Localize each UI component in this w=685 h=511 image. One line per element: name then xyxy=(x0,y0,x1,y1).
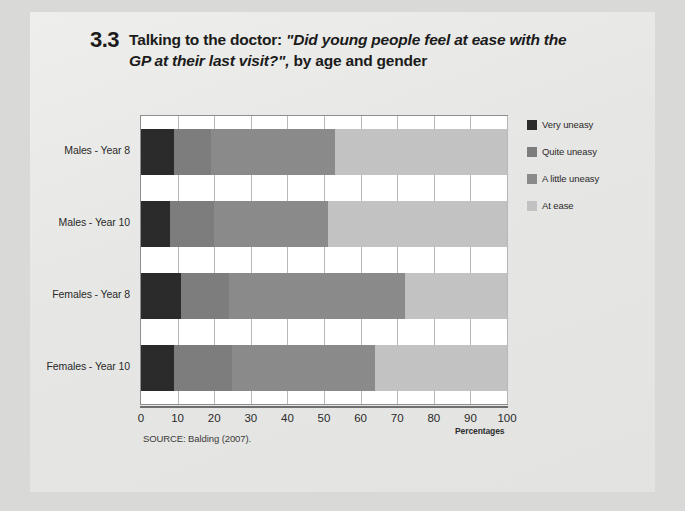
chart-legend: Very uneasyQuite uneasyA little uneasyAt… xyxy=(527,119,647,227)
x-tick-30: 30 xyxy=(244,412,257,424)
legend-item-very-uneasy[interactable]: Very uneasy xyxy=(527,119,647,130)
stacked-bar-chart: Males - Year 8Males - Year 10Females - Y… xyxy=(30,12,655,492)
x-axis-title: Percentages xyxy=(455,426,504,436)
x-axis: 0102030405060708090100 xyxy=(140,406,508,432)
legend-label: At ease xyxy=(542,200,574,211)
category-axis-labels: Males - Year 8Males - Year 10Females - Y… xyxy=(30,115,134,405)
segment-very-uneasy xyxy=(141,129,174,175)
x-tick-70: 70 xyxy=(391,412,404,424)
legend-item-at-ease[interactable]: At ease xyxy=(527,200,647,211)
legend-label: Very uneasy xyxy=(542,119,593,130)
segment-at-ease xyxy=(375,345,507,391)
segment-very-uneasy xyxy=(141,345,174,391)
legend-swatch-icon xyxy=(527,174,537,184)
legend-swatch-icon xyxy=(527,147,537,157)
segment-a-little-uneasy xyxy=(232,345,375,391)
figure-page: 3.3 Talking to the doctor: "Did young pe… xyxy=(30,12,655,492)
x-tick-0: 0 xyxy=(138,412,144,424)
source-note: SOURCE: Balding (2007). xyxy=(143,433,251,444)
category-label-females-year-8: Females - Year 8 xyxy=(30,288,130,300)
segment-quite-uneasy xyxy=(181,273,229,319)
segment-very-uneasy xyxy=(141,273,181,319)
segment-very-uneasy xyxy=(141,201,170,247)
bar-series-container xyxy=(141,116,507,404)
plot-area xyxy=(140,115,508,405)
category-label-males-year-10: Males - Year 10 xyxy=(30,216,130,228)
segment-quite-uneasy xyxy=(170,201,214,247)
bar-females-year-10 xyxy=(141,345,507,391)
x-tick-80: 80 xyxy=(427,412,440,424)
segment-a-little-uneasy xyxy=(211,129,335,175)
x-tick-90: 90 xyxy=(464,412,477,424)
segment-a-little-uneasy xyxy=(214,201,327,247)
x-tick-10: 10 xyxy=(171,412,184,424)
segment-at-ease xyxy=(328,201,507,247)
legend-label: A little uneasy xyxy=(542,173,599,184)
segment-quite-uneasy xyxy=(174,129,211,175)
x-axis-line xyxy=(140,406,508,408)
legend-item-a-little-uneasy[interactable]: A little uneasy xyxy=(527,173,647,184)
category-label-males-year-8: Males - Year 8 xyxy=(30,144,130,156)
x-tick-40: 40 xyxy=(281,412,294,424)
segment-a-little-uneasy xyxy=(229,273,405,319)
segment-at-ease xyxy=(335,129,507,175)
legend-item-quite-uneasy[interactable]: Quite uneasy xyxy=(527,146,647,157)
bar-males-year-10 xyxy=(141,201,507,247)
legend-swatch-icon xyxy=(527,120,537,130)
x-tick-20: 20 xyxy=(208,412,221,424)
bar-females-year-8 xyxy=(141,273,507,319)
x-tick-50: 50 xyxy=(318,412,331,424)
legend-swatch-icon xyxy=(527,201,537,211)
segment-quite-uneasy xyxy=(174,345,233,391)
category-label-females-year-10: Females - Year 10 xyxy=(30,360,130,372)
x-tick-60: 60 xyxy=(354,412,367,424)
legend-label: Quite uneasy xyxy=(542,146,597,157)
x-tick-100: 100 xyxy=(497,412,516,424)
gridline-100 xyxy=(507,116,508,404)
segment-at-ease xyxy=(405,273,507,319)
bar-males-year-8 xyxy=(141,129,507,175)
